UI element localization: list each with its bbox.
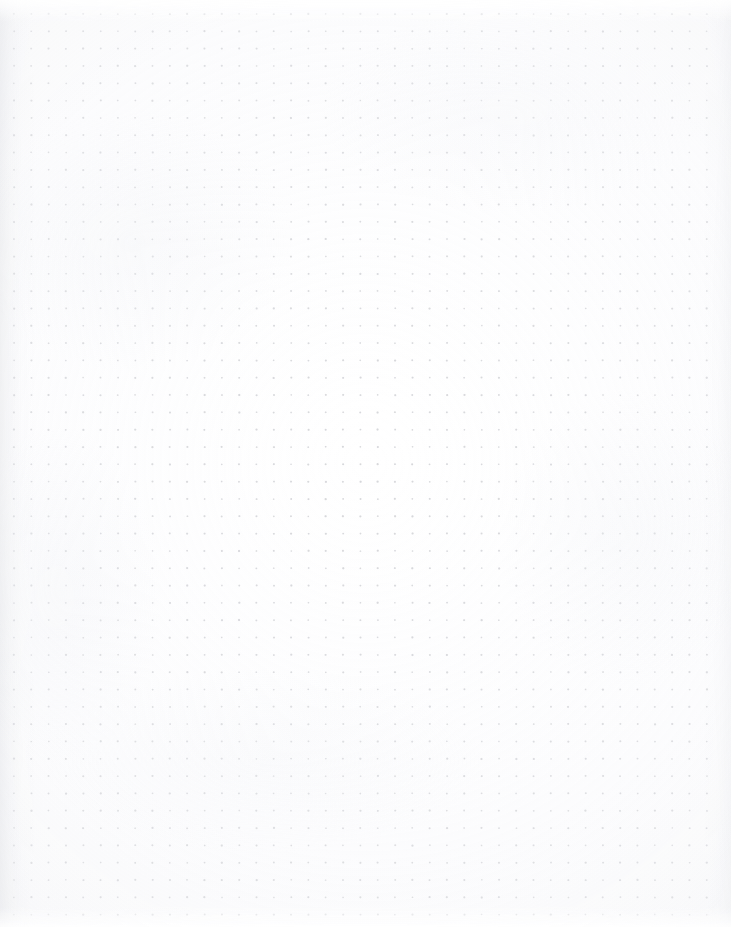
left-edge-shadow	[0, 0, 34, 927]
paper-mottle-overlay	[0, 0, 731, 927]
dot-grid-canvas	[0, 0, 731, 927]
top-edge-highlight	[0, 0, 731, 22]
bottom-edge-highlight	[0, 907, 731, 927]
dot-grid-paper-page	[0, 0, 731, 927]
dot-grid-layer	[0, 0, 731, 927]
paper-vignette-overlay	[0, 0, 731, 927]
right-edge-shadow	[705, 0, 731, 927]
